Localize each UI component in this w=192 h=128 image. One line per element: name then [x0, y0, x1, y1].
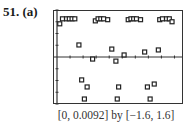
- data-point-square-marker: [148, 97, 152, 101]
- data-points: [58, 17, 174, 101]
- data-point-square-marker: [114, 59, 118, 63]
- axes: [54, 10, 182, 104]
- data-point-square-marker: [106, 18, 110, 22]
- data-point-square-marker: [102, 17, 106, 21]
- data-point-square-marker: [82, 97, 86, 101]
- data-point-square-marker: [170, 20, 174, 24]
- data-point-square-marker: [91, 57, 95, 61]
- data-point-square-marker: [115, 97, 119, 101]
- data-point-square-marker: [117, 85, 121, 89]
- data-point-square-marker: [152, 82, 156, 86]
- data-point-square-marker: [60, 17, 64, 21]
- data-point-square-marker: [80, 78, 84, 82]
- data-point-square-marker: [156, 48, 160, 52]
- data-point-square-marker: [85, 85, 89, 89]
- data-point-square-marker: [73, 17, 77, 21]
- data-point-square-marker: [143, 50, 147, 54]
- data-point-square-marker: [134, 17, 138, 21]
- data-point-square-marker: [58, 22, 62, 26]
- data-point-square-marker: [77, 43, 81, 47]
- data-point-square-marker: [110, 47, 114, 51]
- data-point-square-marker: [122, 53, 126, 57]
- data-point-square-marker: [160, 17, 164, 21]
- data-point-square-marker: [145, 85, 149, 89]
- viewing-window-caption: [0, 0.0092] by [−1.6, 1.6]: [40, 109, 192, 121]
- data-point-square-marker: [139, 18, 143, 22]
